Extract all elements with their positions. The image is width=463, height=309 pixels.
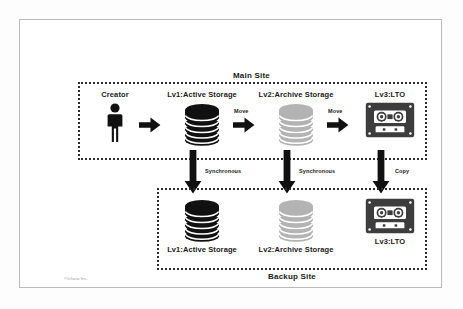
page-frame: Main Site Creator Lv1:Active Storage — [19, 19, 442, 288]
node-lv2-archive-storage-backup-icon-wrap — [274, 198, 318, 242]
node-lv2-archive-storage-main-label: Lv2:Archive Storage — [259, 90, 334, 99]
node-lv3-lto-main-icon-wrap — [365, 102, 415, 138]
node-lv3-lto-backup-label: Lv3:LTO — [375, 237, 405, 246]
diagram-canvas: Main Site Creator Lv1:Active Storage — [0, 0, 463, 309]
database-icon — [274, 198, 318, 242]
database-icon — [180, 102, 224, 146]
node-creator-icon-wrap — [105, 102, 125, 142]
node-lv1-active-storage-backup-icon-wrap — [180, 198, 224, 242]
person-icon — [105, 102, 125, 142]
node-creator-label: Creator — [101, 90, 128, 99]
node-lv3-lto-main: Lv3:LTO — [342, 90, 438, 138]
edge-label-move-active-to-archive: Move — [234, 108, 248, 114]
node-lv2-archive-storage-main-icon-wrap — [274, 102, 318, 146]
edge-label-synchronous-active: Synchronous — [205, 168, 241, 174]
node-lv2-archive-storage-backup-label: Lv2:Archive Storage — [259, 245, 334, 254]
edge-label-copy: Copy — [395, 168, 409, 174]
tape-cartridge-icon — [365, 102, 415, 138]
node-lv1-active-storage-backup: Lv1:Active Storage — [154, 198, 250, 254]
database-icon — [180, 198, 224, 242]
database-icon — [274, 102, 318, 146]
node-lv1-active-storage-backup-label: Lv1:Active Storage — [167, 245, 237, 254]
edge-label-synchronous-archive: Synchronous — [299, 168, 335, 174]
edge-label-move-archive-to-lto: Move — [328, 108, 342, 114]
node-lv3-lto-backup: Lv3:LTO — [342, 198, 438, 246]
footer-credit: ©Ichara Inc. — [64, 276, 88, 281]
node-lv1-active-storage-main-label: Lv1:Active Storage — [167, 90, 237, 99]
backup-site-title: Backup Site — [268, 272, 316, 281]
node-lv1-active-storage-main-icon-wrap — [180, 102, 224, 146]
node-lv2-archive-storage-backup: Lv2:Archive Storage — [248, 198, 344, 254]
node-creator: Creator — [67, 90, 163, 142]
node-lv3-lto-backup-icon-wrap — [365, 198, 415, 234]
node-lv3-lto-main-label: Lv3:LTO — [375, 90, 405, 99]
tape-cartridge-icon — [365, 198, 415, 234]
main-site-title: Main Site — [233, 71, 270, 80]
